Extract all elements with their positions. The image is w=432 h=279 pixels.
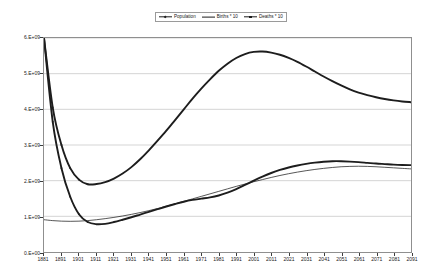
- y-axis-tick-label: 1.E+09: [24, 214, 40, 220]
- chart-canvas: [44, 38, 411, 252]
- data-point-marker: [52, 121, 54, 123]
- plot-area: [43, 37, 412, 253]
- x-axis-tick-label: 2021: [283, 256, 294, 262]
- x-axis-tick-label: 1941: [143, 256, 154, 262]
- data-point-marker: [69, 167, 71, 169]
- x-axis-tick-label: 1991: [231, 256, 242, 262]
- chart-screenshot: Population Births * 10 Deaths * 10 0.E+0…: [0, 0, 432, 279]
- legend-label-deaths: Deaths * 10: [259, 14, 283, 20]
- x-axis-tick-label: 1921: [108, 256, 119, 262]
- x-axis-tick-label: 1931: [125, 256, 136, 262]
- data-point-marker: [44, 38, 45, 39]
- x-axis-tick-label: 1911: [90, 256, 101, 262]
- legend-swatch-population: [159, 14, 172, 20]
- legend-marker-square-icon: [249, 16, 251, 18]
- y-axis-tick-label: 3.E+09: [24, 142, 40, 148]
- series-line-deaths-10: [44, 38, 411, 224]
- x-axis-tick-label: 2001: [248, 256, 259, 262]
- y-axis-tick-label: 2.E+09: [24, 178, 40, 184]
- x-axis-tick-label: 1881: [37, 256, 48, 262]
- data-point-marker: [78, 213, 80, 215]
- x-axis-tick-label: 2061: [354, 256, 365, 262]
- data-point-marker: [52, 107, 54, 109]
- x-axis-labels: 1881189119011911192119311941195119611971…: [43, 256, 412, 268]
- x-axis-tick-label: 2091: [406, 256, 417, 262]
- legend-item-deaths: Deaths * 10: [244, 14, 283, 20]
- legend-label-births: Births * 10: [217, 14, 238, 20]
- data-point-marker: [87, 183, 89, 185]
- legend-item-population: Population: [159, 14, 196, 20]
- x-axis-tick-label: 2051: [336, 256, 347, 262]
- legend-swatch-births: [202, 14, 215, 20]
- legend-item-births: Births * 10: [202, 14, 238, 20]
- x-axis-tick-label: 2041: [319, 256, 330, 262]
- chart-legend: Population Births * 10 Deaths * 10: [155, 12, 287, 22]
- x-axis-tick-label: 2071: [371, 256, 382, 262]
- data-point-marker: [78, 179, 80, 181]
- x-axis-tick-label: 1981: [213, 256, 224, 262]
- x-axis-tick-label: 1951: [160, 256, 171, 262]
- data-point-marker: [61, 167, 63, 169]
- x-axis-tick-label: 2031: [301, 256, 312, 262]
- x-axis-tick-label: 1891: [55, 256, 66, 262]
- x-axis-tick-label: 1901: [73, 256, 84, 262]
- x-axis-tick-label: 1961: [178, 256, 189, 262]
- y-axis-labels: 0.E+001.E+092.E+093.E+094.E+095.E+096.E+…: [0, 37, 40, 253]
- y-axis-tick-label: 5.E+09: [24, 70, 40, 76]
- legend-swatch-deaths: [244, 14, 257, 20]
- data-point-marker: [69, 196, 71, 198]
- x-axis-tick-label: 2011: [266, 256, 277, 262]
- x-axis-tick-label: 1971: [196, 256, 207, 262]
- data-point-marker: [61, 144, 63, 146]
- y-axis-tick-label: 6.E+09: [24, 34, 40, 40]
- series-line-births-10: [44, 166, 411, 221]
- data-point-marker: [87, 221, 89, 223]
- x-axis-tick-label: 2081: [389, 256, 400, 262]
- y-axis-tick-label: 4.E+09: [24, 106, 40, 112]
- legend-label-population: Population: [174, 14, 196, 20]
